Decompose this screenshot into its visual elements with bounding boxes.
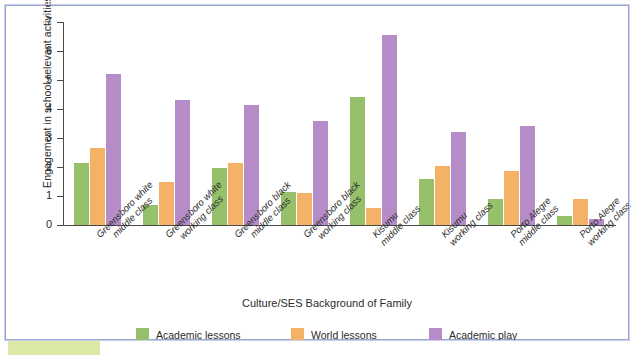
bar-group: [419, 22, 466, 225]
x-axis-tick-labels: Greensboro whitemiddle classGreensboro w…: [6, 228, 642, 298]
y-tick-label: 2: [36, 160, 52, 172]
y-tick-label: 3: [36, 131, 52, 143]
bar: [557, 216, 572, 225]
bar: [74, 163, 89, 225]
bar-group: [488, 22, 535, 225]
legend-swatch: [429, 328, 442, 341]
y-tick-label: 6: [36, 44, 52, 56]
bar: [435, 166, 450, 225]
legend-swatch: [136, 328, 149, 341]
legend-swatch: [291, 328, 304, 341]
y-axis-tick-labels: 01234567: [6, 6, 55, 246]
bar: [159, 182, 174, 226]
y-tick-label: 1: [36, 189, 52, 201]
bar-group: [74, 22, 121, 225]
bar: [504, 171, 519, 225]
legend-label: Academic play: [449, 329, 517, 341]
legend-item: World lessons: [291, 328, 377, 341]
bar-group: [557, 22, 604, 225]
bar: [573, 199, 588, 225]
y-tick-label: 5: [36, 73, 52, 85]
bar: [419, 179, 434, 225]
x-axis-title: Culture/SES Background of Family: [6, 297, 642, 309]
chart-legend: Academic lessonsWorld lessonsAcademic pl…: [136, 328, 536, 348]
bar: [90, 148, 105, 225]
bar: [106, 74, 121, 225]
legend-label: World lessons: [311, 329, 377, 341]
legend-label: Academic lessons: [156, 329, 241, 341]
chart-frame: Engagement in school-relevant activities…: [4, 4, 630, 341]
legend-item: Academic play: [429, 328, 517, 341]
bar: [297, 193, 312, 225]
y-tick-label: 4: [36, 102, 52, 114]
y-tick-label: 7: [36, 15, 52, 27]
legend-item: Academic lessons: [136, 328, 241, 341]
bar: [382, 35, 397, 225]
page-accent-tab: [8, 341, 100, 355]
